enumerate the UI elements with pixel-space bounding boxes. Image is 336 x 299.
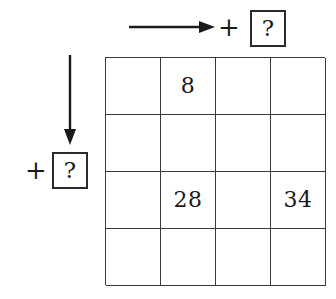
grid-cell-r4c3[interactable]: [216, 229, 271, 286]
grid-cell-r1c3[interactable]: [216, 58, 271, 115]
grid-cell-r2c1[interactable]: [106, 115, 161, 172]
arrow-down-icon: [62, 55, 78, 145]
grid-cell-r3c1[interactable]: [106, 172, 161, 229]
left-operator-plus: +: [25, 157, 47, 183]
grid-cell-r1c2[interactable]: 8: [161, 58, 216, 115]
number-grid: 8 28 34: [105, 57, 325, 285]
left-unknown-box[interactable]: ?: [52, 152, 88, 189]
grid-cell-r4c2[interactable]: [161, 229, 216, 286]
grid-cell-r2c4[interactable]: [271, 115, 326, 172]
grid-cell-r4c1[interactable]: [106, 229, 161, 286]
grid-cell-r2c2[interactable]: [161, 115, 216, 172]
grid-cell-r3c4[interactable]: 34: [271, 172, 326, 229]
grid-cell-r1c1[interactable]: [106, 58, 161, 115]
arrow-right-icon: [129, 19, 215, 35]
puzzle-figure: + ? + ? 8 28 34: [0, 0, 336, 299]
top-unknown-box[interactable]: ?: [250, 10, 286, 47]
grid-cell-r3c2[interactable]: 28: [161, 172, 216, 229]
grid-cell-r4c4[interactable]: [271, 229, 326, 286]
grid-cell-r3c3[interactable]: [216, 172, 271, 229]
grid-cell-r2c3[interactable]: [216, 115, 271, 172]
top-operator-plus: +: [218, 14, 240, 40]
grid-cell-r1c4[interactable]: [271, 58, 326, 115]
